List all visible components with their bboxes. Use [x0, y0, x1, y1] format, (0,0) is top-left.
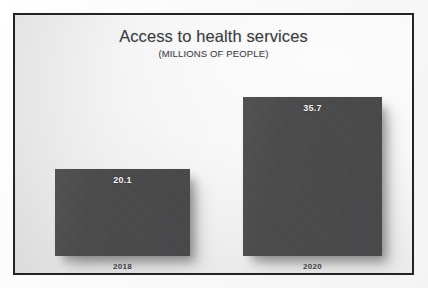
chart-header: Access to health services (MILLIONS OF P… [15, 27, 412, 60]
bar-2020[interactable] [243, 97, 382, 256]
bar-group-2018: 20.1 2018 [55, 41, 190, 273]
bar-value-label-2020: 35.7 [243, 103, 382, 113]
bar-category-label-2020: 2020 [243, 262, 382, 271]
chart-frame: Access to health services (MILLIONS OF P… [13, 13, 414, 275]
bar-value-label-2018: 20.1 [55, 175, 190, 185]
chart-title: Access to health services [15, 27, 412, 46]
bar-group-2020: 35.7 2020 [243, 41, 382, 273]
bar-category-label-2018: 2018 [55, 262, 190, 271]
chart-subtitle: (MILLIONS OF PEOPLE) [15, 48, 412, 60]
chart-screenshot: Access to health services (MILLIONS OF P… [0, 0, 428, 288]
